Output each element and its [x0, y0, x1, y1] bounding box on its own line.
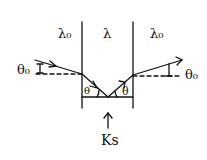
- diagram-canvas: λ₀ λ λ₀ θ₀ θ θ θ₀ Ks: [0, 0, 207, 160]
- incident-angle-label: θ₀: [17, 63, 30, 76]
- exit-angle-label: θ₀: [185, 68, 198, 81]
- region-label-left: λ₀: [58, 27, 71, 40]
- ks-label: Ks: [101, 133, 119, 147]
- incident-ray: [35, 60, 82, 74]
- angle-arc-icon: [97, 90, 99, 97]
- angle-arc-icon: [115, 91, 117, 97]
- inner-angle-left-label: θ: [84, 86, 90, 96]
- inner-angle-right-label: θ: [122, 86, 129, 97]
- region-label-right: λ₀: [150, 27, 163, 40]
- region-label-center: λ: [103, 27, 111, 40]
- inner-ray-up: [108, 75, 133, 97]
- exit-ray: [133, 60, 182, 75]
- angle-mark-icon: [166, 64, 172, 76]
- angle-mark-icon: [37, 64, 43, 73]
